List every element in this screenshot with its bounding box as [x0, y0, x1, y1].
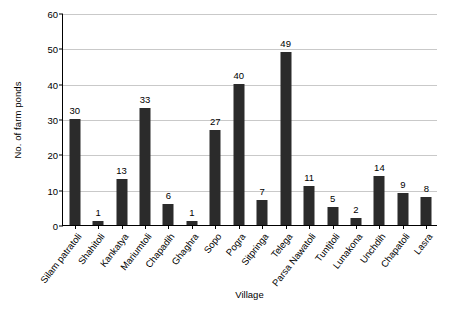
bar-value-label: 5: [330, 193, 335, 204]
y-axis-tick-label: 50: [47, 44, 58, 55]
y-axis-tick-label: 20: [47, 150, 58, 161]
bar-value-label: 1: [189, 207, 194, 218]
y-axis-title: No. of farm ponds: [12, 81, 23, 158]
bar-series: 30Silam patratoli1Shahitoli13Kankatya33M…: [63, 14, 437, 225]
bar-value-label: 11: [304, 172, 314, 183]
bar[interactable]: [210, 130, 221, 225]
y-axis-tick-label: 10: [47, 185, 58, 196]
bar[interactable]: [421, 197, 432, 225]
bar-slot: 1Ghaghra: [180, 14, 203, 225]
x-axis-tick-mark: [192, 225, 193, 229]
bar-value-label: 40: [233, 70, 244, 81]
bar-slot: 5Tuntjtoli: [321, 14, 344, 225]
y-axis-tick-label: 40: [47, 79, 58, 90]
x-axis-tick-mark: [403, 225, 404, 229]
x-axis-tick-mark: [333, 225, 334, 229]
bar-value-label: 8: [424, 183, 429, 194]
bar-slot: 14Unchdih: [368, 14, 391, 225]
bar[interactable]: [397, 193, 408, 225]
bar-slot: 30Silam patratoli: [63, 14, 86, 225]
bar[interactable]: [257, 200, 268, 225]
bar[interactable]: [374, 176, 385, 225]
bar-slot: 40Pogra: [227, 14, 250, 225]
x-axis-title: Village: [62, 289, 437, 300]
bar[interactable]: [69, 119, 80, 225]
bar-slot: 49Telega: [274, 14, 297, 225]
x-axis-tick-mark: [145, 225, 146, 229]
bar-slot: 27Sopo: [204, 14, 227, 225]
bar-value-label: 2: [353, 204, 358, 215]
bar-value-label: 13: [116, 165, 127, 176]
bar-slot: 8Lasra: [415, 14, 438, 225]
x-axis-tick-mark: [75, 225, 76, 229]
x-axis-tick-mark: [215, 225, 216, 229]
bar[interactable]: [116, 179, 127, 225]
bar-value-label: 14: [374, 162, 385, 173]
bar[interactable]: [140, 108, 151, 225]
x-axis-tick-mark: [426, 225, 427, 229]
x-axis-tick-mark: [168, 225, 169, 229]
bar-slot: 33Mariumtoli: [133, 14, 156, 225]
x-axis-tick-mark: [379, 225, 380, 229]
bar-value-label: 9: [400, 179, 405, 190]
bar-slot: 11Parsa Nawatoli: [297, 14, 320, 225]
bar-slot: 6Chapadih: [157, 14, 180, 225]
bar-slot: 13Kankatya: [110, 14, 133, 225]
bar[interactable]: [280, 52, 291, 225]
bar[interactable]: [304, 186, 315, 225]
x-axis-tick-mark: [309, 225, 310, 229]
x-axis-tick-mark: [286, 225, 287, 229]
y-axis-tick-mark: [59, 226, 63, 227]
x-axis-tick-mark: [262, 225, 263, 229]
x-axis-tick-mark: [98, 225, 99, 229]
x-axis-category-label: Sopo: [202, 231, 224, 255]
y-axis-tick-label: 60: [47, 9, 58, 20]
bar-slot: 2Lunakona: [344, 14, 367, 225]
bar-value-label: 30: [69, 105, 80, 116]
bar-value-label: 6: [166, 190, 171, 201]
x-axis-tick-mark: [122, 225, 123, 229]
y-axis-tick-label: 30: [47, 115, 58, 126]
bar[interactable]: [327, 207, 338, 225]
bar[interactable]: [233, 84, 244, 225]
bar-chart: No. of farm ponds 0102030405060 30Silam …: [0, 0, 454, 313]
bar[interactable]: [350, 218, 361, 225]
bar-slot: 9Chapatoli: [391, 14, 414, 225]
bar-slot: 7Sitpringa: [251, 14, 274, 225]
y-axis-tick-label: 0: [53, 221, 58, 232]
bar-value-label: 33: [140, 94, 151, 105]
x-axis-category-label: Lasra: [412, 231, 435, 256]
bar-slot: 1Shahitoli: [86, 14, 109, 225]
bar-value-label: 7: [260, 186, 265, 197]
x-axis-tick-mark: [239, 225, 240, 229]
bar-value-label: 49: [280, 38, 291, 49]
bar-value-label: 1: [96, 207, 101, 218]
bar-value-label: 27: [210, 116, 221, 127]
plot-area: No. of farm ponds 0102030405060 30Silam …: [62, 14, 437, 226]
x-axis-tick-mark: [356, 225, 357, 229]
bar[interactable]: [163, 204, 174, 225]
